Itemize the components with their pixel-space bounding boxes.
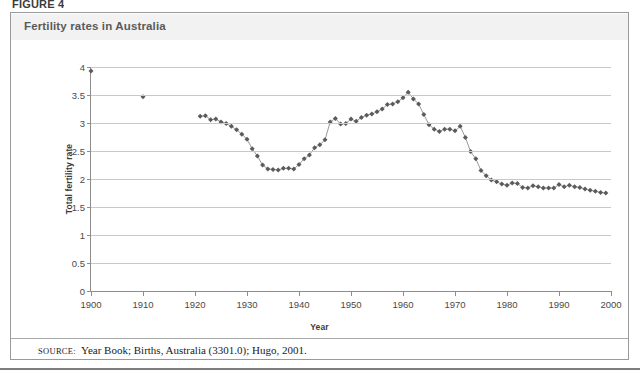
x-tick-mark — [559, 291, 560, 296]
data-point-marker — [364, 113, 369, 118]
x-axis-title: Year — [0, 322, 639, 332]
data-point-marker — [593, 189, 598, 194]
y-tick-label: 1.5 — [72, 202, 85, 213]
source-note: SOURCE: Year Book; Births, Australia (33… — [38, 344, 307, 356]
data-point-marker — [531, 183, 536, 188]
data-point-marker — [525, 185, 530, 190]
gridline — [91, 235, 611, 236]
data-point-marker — [421, 112, 426, 117]
data-point-marker — [572, 184, 577, 189]
data-point-marker — [442, 127, 447, 132]
y-tick-mark — [87, 123, 91, 124]
y-tick-label: 1 — [80, 230, 85, 241]
data-point-marker — [603, 191, 608, 196]
data-point-marker — [562, 184, 567, 189]
x-tick-mark — [91, 291, 92, 296]
data-point-marker — [505, 183, 510, 188]
x-tick-mark — [403, 291, 404, 296]
y-tick-mark — [87, 179, 91, 180]
y-tick-mark — [87, 67, 91, 68]
x-tick-mark — [299, 291, 300, 296]
gridline — [91, 123, 611, 124]
x-tick-label: 1960 — [392, 299, 413, 310]
x-tick-label: 1930 — [236, 299, 257, 310]
source-prefix: SOURCE: — [38, 346, 76, 356]
data-point-marker — [276, 168, 281, 173]
data-point-marker — [437, 129, 442, 134]
y-tick-label: 2.5 — [72, 146, 85, 157]
bottom-rule — [0, 368, 640, 370]
y-tick-label: 0.5 — [72, 258, 85, 269]
data-point-marker — [447, 127, 452, 132]
gridline — [91, 151, 611, 152]
x-tick-mark — [507, 291, 508, 296]
x-tick-label: 1980 — [496, 299, 517, 310]
data-point-marker — [510, 180, 515, 185]
y-tick-label: 0 — [80, 286, 85, 297]
data-point-marker — [375, 109, 380, 114]
x-tick-label: 1920 — [184, 299, 205, 310]
plot-area: 00.511.522.533.5419001910192019301940195… — [90, 67, 611, 292]
data-point-marker — [557, 182, 562, 187]
data-point-marker — [588, 188, 593, 193]
x-tick-mark — [351, 291, 352, 296]
x-tick-label: 1970 — [444, 299, 465, 310]
data-point-marker — [390, 101, 395, 106]
data-point-marker — [567, 183, 572, 188]
data-point-marker — [583, 187, 588, 192]
data-point-marker — [494, 179, 499, 184]
series-line — [200, 92, 606, 193]
gridline — [91, 263, 611, 264]
data-point-marker — [281, 166, 286, 171]
x-tick-label: 1940 — [288, 299, 309, 310]
y-tick-mark — [87, 151, 91, 152]
x-tick-label: 1950 — [340, 299, 361, 310]
gridline — [91, 67, 611, 68]
y-tick-label: 3 — [80, 118, 85, 129]
x-tick-label: 1900 — [80, 299, 101, 310]
x-tick-label: 1990 — [548, 299, 569, 310]
x-tick-mark — [611, 291, 612, 296]
source-text: Year Book; Births, Australia (3301.0); H… — [81, 344, 307, 356]
gridline — [91, 207, 611, 208]
gridline — [91, 179, 611, 180]
data-point-marker — [369, 112, 374, 117]
data-point-marker — [286, 166, 291, 171]
data-point-marker — [229, 124, 234, 129]
data-point-marker — [577, 185, 582, 190]
x-tick-mark — [143, 291, 144, 296]
data-point-marker — [89, 68, 94, 73]
data-point-marker — [198, 114, 203, 119]
data-point-marker — [598, 190, 603, 195]
x-tick-mark — [247, 291, 248, 296]
data-point-marker — [463, 135, 468, 140]
y-tick-label: 2 — [80, 174, 85, 185]
data-point-marker — [551, 185, 556, 190]
y-tick-label: 3.5 — [72, 90, 85, 101]
x-tick-label: 1910 — [132, 299, 153, 310]
y-tick-mark — [87, 207, 91, 208]
data-point-marker — [546, 185, 551, 190]
y-tick-label: 4 — [80, 62, 85, 73]
data-point-marker — [536, 184, 541, 189]
figure-label: FIGURE 4 — [12, 0, 64, 12]
data-point-marker — [271, 167, 276, 172]
chart-title: Fertility rates in Australia — [24, 20, 166, 32]
y-tick-mark — [87, 235, 91, 236]
y-tick-mark — [87, 263, 91, 264]
x-tick-mark — [455, 291, 456, 296]
y-tick-mark — [87, 95, 91, 96]
x-tick-mark — [195, 291, 196, 296]
x-tick-label: 2000 — [600, 299, 621, 310]
data-point-marker — [499, 182, 504, 187]
data-point-marker — [541, 185, 546, 190]
data-point-marker — [213, 117, 218, 122]
gridline — [91, 95, 611, 96]
source-divider — [11, 338, 628, 339]
